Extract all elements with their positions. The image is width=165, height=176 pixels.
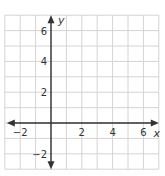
- x-axis-arrow-left-icon: [7, 120, 15, 127]
- x-tick-label: 4: [109, 127, 115, 138]
- y-tick-label: 2: [41, 87, 47, 98]
- y-axis-label: y: [57, 14, 65, 27]
- y-tick-label: 4: [41, 56, 47, 67]
- y-tick-label: −2: [32, 149, 47, 160]
- x-tick-label: −2: [13, 127, 28, 138]
- x-axis-label: x: [153, 127, 161, 140]
- y-axis-arrow-down-icon: [48, 161, 55, 169]
- y-axis-arrow-up-icon: [48, 15, 55, 23]
- x-tick-label: 6: [140, 127, 146, 138]
- x-tick-label: 2: [79, 127, 85, 138]
- y-tick-label: 6: [41, 26, 47, 37]
- coordinate-plane: −2246−2246xy: [0, 0, 165, 176]
- x-axis-arrow-right-icon: [151, 120, 159, 127]
- grid-lines: [5, 15, 159, 169]
